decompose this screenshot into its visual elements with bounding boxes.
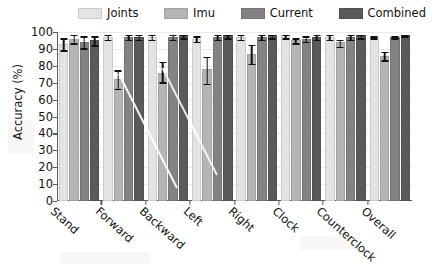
error-bar xyxy=(337,40,344,48)
bar-slot xyxy=(336,32,345,201)
bar-slot xyxy=(202,32,211,201)
legend-item-joints: Joints xyxy=(78,8,138,20)
error-bar-cap-bottom xyxy=(180,38,187,40)
x-tick-label-stand: Stand xyxy=(48,204,82,237)
error-bar xyxy=(303,36,310,43)
error-bar xyxy=(159,62,166,84)
bar-current-stand xyxy=(80,42,89,201)
error-bar xyxy=(381,52,388,62)
error-bar-cap-top xyxy=(238,35,245,37)
error-bar-cap-bottom xyxy=(149,40,156,42)
x-tick-label-left: Left xyxy=(181,204,206,229)
bar-slot xyxy=(59,32,68,201)
error-bar xyxy=(60,38,67,52)
error-bar-cap-bottom xyxy=(248,64,255,66)
error-bar-cap-bottom xyxy=(204,84,211,86)
error-bar-cap-bottom xyxy=(238,40,245,42)
x-tick-label-backward: Backward xyxy=(137,204,188,252)
bar-slot xyxy=(236,32,245,201)
error-bar-cap-bottom xyxy=(115,89,122,91)
bar-groups xyxy=(57,32,412,201)
error-bar xyxy=(347,35,354,42)
error-bar-cap-bottom xyxy=(326,40,333,42)
bar-current-backward xyxy=(168,37,177,201)
bar-slot xyxy=(179,32,188,201)
bar-combined-clock xyxy=(312,37,321,201)
error-bar xyxy=(170,35,177,42)
error-bar xyxy=(224,35,231,40)
error-bar-cap-top xyxy=(303,36,310,38)
error-bar-cap-bottom xyxy=(303,42,310,44)
error-bar xyxy=(204,57,211,86)
bar-joints-clock xyxy=(281,35,290,201)
bar-slot xyxy=(134,32,143,201)
chart-legend: JointsImuCurrentCombined xyxy=(78,6,426,21)
error-bar xyxy=(71,35,78,45)
bar-slot xyxy=(370,32,379,201)
error-bar-cap-bottom xyxy=(313,40,320,42)
bar-group-clock xyxy=(279,32,323,201)
error-bar-cap-bottom xyxy=(371,38,378,40)
x-axis-tick-labels: StandForwardBackwardLeftRightClockCounte… xyxy=(57,204,412,270)
bar-imu-counterclock xyxy=(336,42,345,201)
error-bar xyxy=(91,36,98,46)
error-bar xyxy=(292,38,299,45)
error-bar-line xyxy=(118,70,120,90)
error-bar-cap-bottom xyxy=(159,82,166,84)
bar-group-stand xyxy=(57,32,101,201)
plot-area xyxy=(57,32,412,201)
error-bar xyxy=(81,36,88,50)
bar-current-right xyxy=(257,37,266,201)
bar-group-forward xyxy=(101,32,145,201)
bar-slot xyxy=(158,32,167,201)
legend-item-combined: Combined xyxy=(339,8,426,20)
x-tick-label-forward: Forward xyxy=(92,204,136,245)
error-bar xyxy=(105,35,112,42)
bar-group-counterclock xyxy=(323,32,367,201)
bar-group-backward xyxy=(146,32,190,201)
bar-slot xyxy=(213,32,222,201)
bar-slot xyxy=(192,32,201,201)
bar-slot xyxy=(90,32,99,201)
legend-item-current: Current xyxy=(241,8,313,20)
bar-joints-stand xyxy=(59,44,68,201)
error-bar xyxy=(248,45,255,65)
error-bar-cap-bottom xyxy=(193,42,200,44)
error-bar xyxy=(371,36,378,39)
bar-group-left xyxy=(190,32,234,201)
error-bar-line xyxy=(206,57,208,86)
bar-current-overall xyxy=(390,37,399,201)
legend-swatch-combined xyxy=(339,8,363,19)
error-bar-cap-top xyxy=(204,57,211,59)
legend-label: Combined xyxy=(368,8,426,20)
bar-imu-left xyxy=(202,69,211,201)
x-tick-label-overall: Overall xyxy=(358,204,398,242)
error-bar xyxy=(136,35,143,42)
error-bar-cap-bottom xyxy=(105,40,112,42)
bar-slot xyxy=(302,32,311,201)
bar-slot xyxy=(356,32,365,201)
bar-joints-left xyxy=(192,39,201,201)
bar-slot xyxy=(380,32,389,201)
error-bar-cap-top xyxy=(292,38,299,40)
error-bar-cap-top xyxy=(214,35,221,37)
error-bar-cap-bottom xyxy=(358,38,365,40)
error-bar-cap-bottom xyxy=(337,47,344,49)
error-bar-cap-top xyxy=(347,35,354,37)
error-bar-cap-bottom xyxy=(214,40,221,42)
error-bar-cap-bottom xyxy=(125,40,132,42)
bar-slot xyxy=(281,32,290,201)
error-bar-cap-top xyxy=(125,35,132,37)
accuracy-bar-chart-figure: JointsImuCurrentCombined Accuracy (%) 10… xyxy=(0,0,434,272)
error-bar xyxy=(125,35,132,42)
bar-slot xyxy=(69,32,78,201)
bar-joints-right xyxy=(236,37,245,201)
error-bar-cap-bottom xyxy=(282,38,289,40)
error-bar-cap-top xyxy=(381,52,388,54)
error-bar xyxy=(193,36,200,43)
bar-slot xyxy=(325,32,334,201)
error-bar xyxy=(392,36,399,39)
error-bar-line xyxy=(162,62,164,84)
error-bar-cap-bottom xyxy=(269,38,276,40)
bar-combined-right xyxy=(268,35,277,201)
